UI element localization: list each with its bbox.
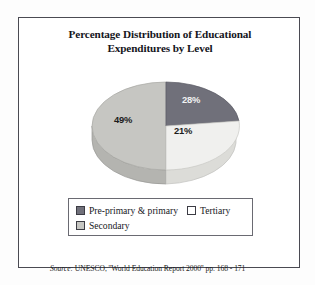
pie-label-pre-primary: 28% [182,94,200,105]
chart-title-line-2: Expenditures by Level [43,41,277,55]
legend-swatch-tertiary [187,206,196,215]
pie-label-tertiary: 21% [174,125,192,136]
legend-label-secondary: Secondary [89,220,130,231]
chart-title-line-1: Percentage Distribution of Educational [43,27,277,41]
legend-row-2: Secondary [76,218,252,233]
chart-legend: Pre-primary & primary Tertiary Secondary [68,198,253,236]
chart-frame: Percentage Distribution of Educational E… [18,17,300,268]
pie-chart: 28% 21% 49% [86,66,246,186]
pie-slice-pre-primary [166,82,239,126]
pie-label-secondary: 49% [114,114,132,125]
chart-title: Percentage Distribution of Educational E… [43,27,277,55]
legend-label-tertiary: Tertiary [200,205,230,216]
source-label: Source: [50,264,73,273]
legend-item-pre-primary: Pre-primary & primary [76,205,178,216]
legend-row-1: Pre-primary & primary Tertiary [76,203,252,218]
legend-swatch-secondary [76,221,85,230]
source-note: Source: UNESCO, ''World Education Report… [50,264,245,273]
legend-label-pre-primary: Pre-primary & primary [89,205,178,216]
legend-item-tertiary: Tertiary [187,205,230,216]
pie-chart-svg [86,66,246,186]
source-text: UNESCO, ''World Education Report 2000'' … [75,264,246,273]
chart-figure: Percentage Distribution of Educational E… [0,0,315,285]
legend-item-secondary: Secondary [76,220,130,231]
legend-swatch-pre-primary [76,206,85,215]
